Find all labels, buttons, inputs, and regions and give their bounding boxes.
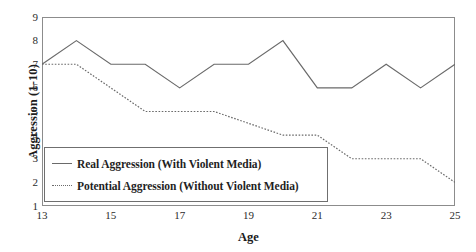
y-tick-label: 8 — [16, 35, 38, 46]
x-tick-label: 19 — [234, 210, 264, 221]
y-tick-label: 6 — [16, 82, 38, 93]
legend-label-potential-aggression: Potential Aggression (Without Violent Me… — [77, 180, 299, 192]
x-tick-label: 21 — [302, 210, 332, 221]
y-tick-label: 4 — [16, 130, 38, 141]
y-tick-label: 5 — [16, 106, 38, 117]
legend-line-solid-icon — [51, 159, 73, 169]
x-tick-label: 23 — [371, 210, 401, 221]
legend-item-potential-aggression: Potential Aggression (Without Violent Me… — [51, 175, 327, 197]
x-tick-label: 17 — [165, 210, 195, 221]
x-tick-label: 13 — [27, 210, 57, 221]
x-tick-label: 25 — [440, 210, 470, 221]
y-tick-label: 2 — [16, 177, 38, 188]
legend-line-dotted-icon — [51, 181, 73, 191]
y-tick-label: 3 — [16, 153, 38, 164]
x-tick-label: 15 — [96, 210, 126, 221]
y-tick-label: 9 — [16, 12, 38, 23]
legend-label-real-aggression: Real Aggression (With Violent Media) — [77, 158, 261, 170]
figure: Aggression (1-10) 123456789 131517192123… — [0, 0, 476, 252]
series-line-real-aggression — [42, 41, 455, 88]
y-tick-label: 7 — [16, 59, 38, 70]
legend-item-real-aggression: Real Aggression (With Violent Media) — [51, 153, 327, 175]
x-axis-title: Age — [42, 230, 455, 245]
chart-legend: Real Aggression (With Violent Media) Pot… — [44, 147, 328, 202]
